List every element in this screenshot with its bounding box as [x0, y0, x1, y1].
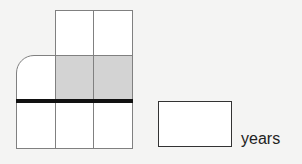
grid-cell-shaded [55, 55, 95, 102]
grid-cell [93, 101, 133, 149]
answer-input-box[interactable] [158, 101, 232, 147]
divider-line [16, 99, 133, 103]
grid-cell [16, 101, 57, 149]
grid-cell-shaded [93, 55, 133, 102]
grid-cell [93, 10, 133, 57]
unit-label: years [241, 130, 280, 148]
grid-cell [55, 10, 95, 57]
grid-cell-rounded [16, 55, 57, 102]
grid-cell [55, 101, 95, 149]
